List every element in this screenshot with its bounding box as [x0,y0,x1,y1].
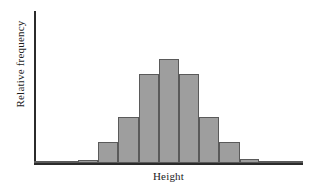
y-axis-label: Relative frequency [14,0,26,134]
histogram-bar [159,59,179,163]
histogram-bar [219,142,240,163]
histogram-bar [179,74,199,163]
histogram-figure: Relative frequency Height [0,0,318,193]
histogram-bar [34,161,78,163]
histogram-bar [199,117,219,163]
histogram-bar [98,142,118,163]
x-axis-line [34,163,303,165]
x-axis-label: Height [34,170,303,182]
histogram-bar [240,159,260,163]
histogram-bar [259,161,303,163]
plot-area [34,11,303,163]
histogram-bar [118,117,139,163]
histogram-bar [139,74,159,163]
histogram-bar [78,160,98,163]
